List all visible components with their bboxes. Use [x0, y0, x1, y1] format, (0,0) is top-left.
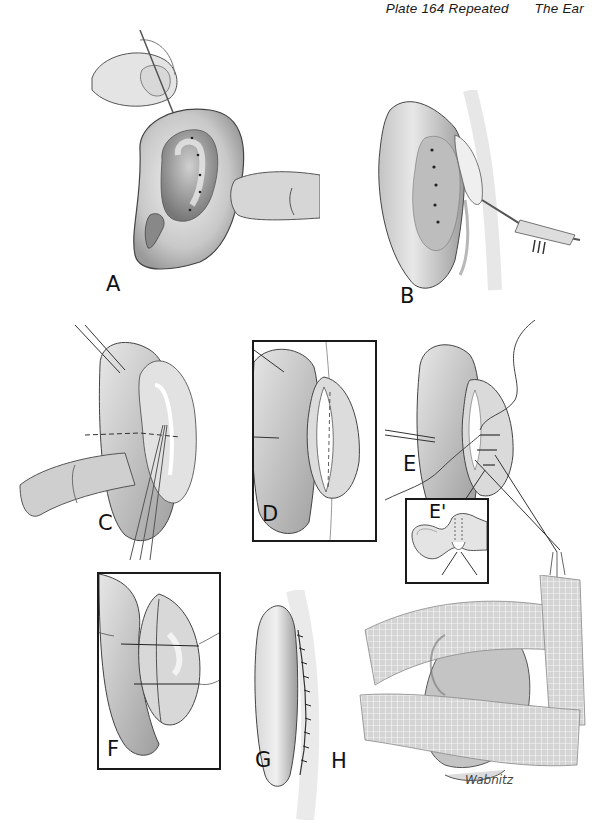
posterior-incision-illustration: [370, 90, 590, 310]
panel-label-c: C: [98, 513, 113, 534]
panel-c: C: [15, 325, 240, 565]
panel-b: B: [370, 90, 590, 310]
gauze-dressing-illustration: [355, 575, 590, 785]
section-title: The Ear: [535, 1, 584, 16]
panel-label-h: H: [331, 751, 347, 772]
panel-label-d: D: [262, 504, 278, 525]
panel-a: A: [80, 30, 320, 290]
artist-signature: Wabnitz: [465, 773, 513, 787]
ear-needle-illustration: [80, 30, 320, 290]
panel-label-f: F: [107, 739, 119, 760]
panel-label-g: G: [255, 750, 271, 771]
page-header: Plate 164 Repeated The Ear: [386, 1, 584, 16]
panel-h: H Wabnitz: [355, 575, 590, 785]
cross-section-inset-illustration: [407, 500, 487, 582]
retracted-ear-sutures-illustration: [15, 325, 240, 565]
panel-label-e: E: [403, 454, 416, 475]
panel-label-b: B: [400, 286, 414, 307]
panel-f-frame: F: [97, 572, 221, 770]
panel-g: G: [250, 590, 330, 820]
panel-label-a: A: [106, 274, 120, 295]
panel-e-prime-frame: E': [405, 498, 489, 584]
panel-label-e-prime: E': [429, 502, 446, 521]
panel-d-frame: D: [252, 340, 377, 542]
closed-incision-illustration: [250, 590, 330, 820]
plate-number: Plate 164 Repeated: [386, 1, 509, 16]
